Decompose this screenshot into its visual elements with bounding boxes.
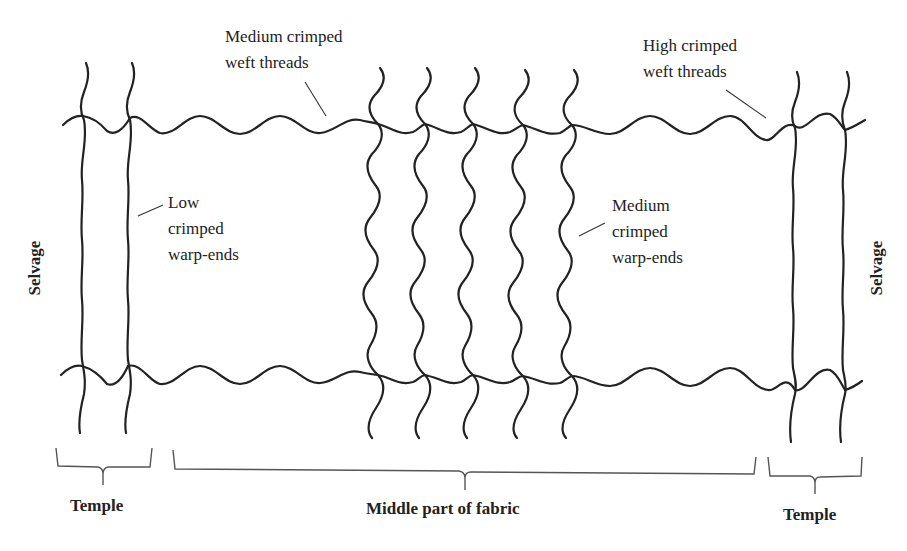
label-low-warp-line2: crimped xyxy=(168,216,239,242)
label-low-warp-line3: warp-ends xyxy=(168,242,239,268)
brace-left-temple xyxy=(56,448,152,485)
label-medium-warp-line2: crimped xyxy=(612,219,683,245)
label-middle-fabric: Middle part of fabric xyxy=(366,499,519,519)
weft-thread-bottom xyxy=(61,365,862,390)
label-high-weft: High crimped weft threads xyxy=(643,33,737,85)
brace-right-temple xyxy=(768,457,862,494)
label-medium-warp-line3: warp-ends xyxy=(612,245,683,271)
fabric-crimp-diagram: Medium crimped weft threads High crimped… xyxy=(0,0,907,551)
leader-high-weft xyxy=(726,90,766,118)
warp-end-low-2 xyxy=(125,63,134,433)
label-temple-right: Temple xyxy=(783,505,836,525)
label-selvage-left: Selvage xyxy=(25,233,45,303)
brace-middle xyxy=(173,450,756,490)
warp-end-low-1 xyxy=(79,63,88,433)
label-medium-warp: Medium crimped warp-ends xyxy=(612,193,683,271)
label-medium-weft-line1: Medium crimped xyxy=(225,24,343,50)
label-temple-left: Temple xyxy=(70,496,123,516)
label-low-warp: Low crimped warp-ends xyxy=(168,190,239,268)
label-low-warp-line1: Low xyxy=(168,190,239,216)
label-high-weft-line2: weft threads xyxy=(643,59,737,85)
label-medium-weft-line2: weft threads xyxy=(225,50,343,76)
label-selvage-right: Selvage xyxy=(867,233,887,303)
leader-medium-weft xyxy=(305,82,326,116)
diagram-canvas xyxy=(0,0,907,551)
leader-medium-warp xyxy=(579,223,605,236)
label-medium-weft: Medium crimped weft threads xyxy=(225,24,343,76)
label-medium-warp-line1: Medium xyxy=(612,193,683,219)
label-high-weft-line1: High crimped xyxy=(643,33,737,59)
leader-low-warp xyxy=(138,205,163,216)
weft-thread-top xyxy=(63,114,865,141)
